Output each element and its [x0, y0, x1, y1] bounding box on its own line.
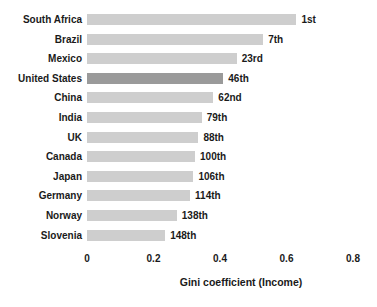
x-tick-0-8: 0.8	[346, 253, 360, 264]
bar-japan	[87, 171, 193, 182]
bar-mexico	[87, 53, 237, 64]
rank-label-united-states: 46th	[228, 73, 249, 84]
category-label-china: China	[0, 92, 82, 103]
rank-label-canada: 100th	[200, 151, 226, 162]
rank-label-mexico: 23rd	[242, 53, 263, 64]
bar-south-africa	[87, 14, 296, 25]
bar-india	[87, 112, 202, 123]
x-tick-0: 0	[84, 253, 90, 264]
rank-label-uk: 88th	[203, 132, 224, 143]
x-tick-0-6: 0.6	[280, 253, 294, 264]
bar-canada	[87, 151, 195, 162]
category-label-brazil: Brazil	[0, 34, 82, 45]
bar-uk	[87, 132, 198, 143]
rank-label-south-africa: 1st	[301, 14, 315, 25]
rank-label-germany: 114th	[195, 190, 221, 201]
rank-label-brazil: 7th	[268, 34, 283, 45]
gini-coefficient-bar-chart: South Africa1stBrazil7thMexico23rdUnited…	[0, 0, 377, 307]
rank-label-india: 79th	[207, 112, 228, 123]
bar-united-states	[87, 73, 223, 84]
category-label-canada: Canada	[0, 151, 82, 162]
rank-label-china: 62nd	[218, 92, 241, 103]
x-tick-0-2: 0.2	[147, 253, 161, 264]
bar-brazil	[87, 34, 263, 45]
rank-label-japan: 106th	[198, 171, 224, 182]
rank-label-norway: 138th	[182, 210, 208, 221]
bar-germany	[87, 190, 190, 201]
x-axis-title: Gini coefficient (Income)	[180, 276, 303, 288]
category-label-uk: UK	[0, 132, 82, 143]
category-label-mexico: Mexico	[0, 53, 82, 64]
category-label-slovenia: Slovenia	[0, 230, 82, 241]
category-label-india: India	[0, 112, 82, 123]
bar-china	[87, 92, 213, 103]
category-label-united-states: United States	[0, 73, 82, 84]
bar-slovenia	[87, 230, 165, 241]
category-label-south-africa: South Africa	[0, 14, 82, 25]
category-label-norway: Norway	[0, 210, 82, 221]
rank-label-slovenia: 148th	[170, 230, 196, 241]
bar-norway	[87, 210, 177, 221]
x-tick-0-4: 0.4	[213, 253, 227, 264]
category-label-germany: Germany	[0, 190, 82, 201]
category-label-japan: Japan	[0, 171, 82, 182]
